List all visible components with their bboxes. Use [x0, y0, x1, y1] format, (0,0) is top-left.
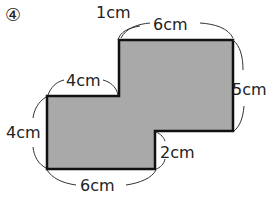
label-left-height: 4cm: [6, 123, 41, 142]
label-notch-height: 2cm: [160, 143, 195, 162]
arc-bottom-width: [47, 170, 76, 185]
arc-notch-height: [156, 132, 165, 141]
arc-step-width: [48, 80, 64, 95]
diagram-canvas: ④ 1cm 6cm 5cm 4cm 4cm 2cm 6cm: [0, 0, 277, 204]
shaded-shape: [47, 40, 233, 169]
problem-number: ④: [5, 4, 21, 25]
label-step-width: 4cm: [66, 71, 101, 90]
label-top-offset: 1cm: [96, 3, 131, 22]
arc-right-height: [233, 40, 243, 70]
label-top-width: 6cm: [153, 15, 188, 34]
label-bottom-width: 6cm: [80, 176, 115, 195]
label-right-height: 5cm: [232, 80, 267, 99]
arc-left-height: [33, 97, 46, 118]
